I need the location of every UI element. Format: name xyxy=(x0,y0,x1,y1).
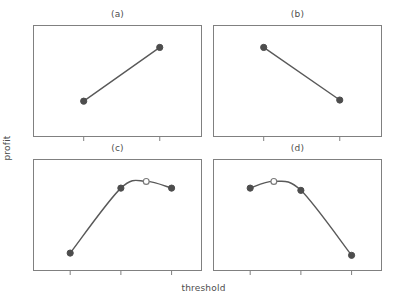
panel-b-title: (b) xyxy=(213,9,382,19)
panel-d-title: (d) xyxy=(213,143,382,153)
panel-d: (d) xyxy=(213,159,382,270)
panel-a-title: (a) xyxy=(33,9,202,19)
panel-c-title: (c) xyxy=(33,143,202,153)
y-axis-label: profit xyxy=(2,124,12,172)
panel-a-plot xyxy=(33,25,202,149)
panel-a: (a) xyxy=(33,25,202,137)
panel-b: (b) xyxy=(213,25,382,137)
x-axis-label: threshold xyxy=(0,283,407,293)
panel-c: (c) xyxy=(33,159,202,270)
panel-c-plot xyxy=(33,159,202,282)
panel-b-plot xyxy=(213,25,382,149)
figure-panel-grid: (a) (b) (c) (d) profit threshold xyxy=(0,0,407,301)
panel-d-plot xyxy=(213,159,382,282)
